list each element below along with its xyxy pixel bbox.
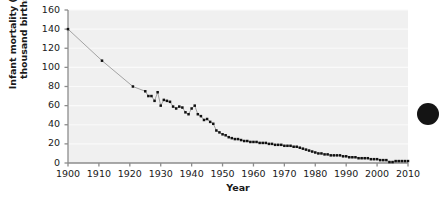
data-point: [243, 140, 246, 143]
data-point: [376, 158, 379, 161]
data-point: [320, 152, 323, 155]
data-point: [326, 153, 329, 156]
data-point: [271, 143, 274, 146]
data-point: [67, 28, 70, 31]
data-point: [370, 158, 373, 161]
data-point: [404, 160, 407, 163]
page-edge-dot-icon: [417, 103, 439, 125]
data-point: [187, 113, 190, 116]
data-point: [144, 90, 147, 93]
data-point: [212, 123, 215, 126]
data-point: [289, 145, 292, 148]
data-point: [351, 156, 354, 159]
data-point: [333, 154, 336, 157]
data-point: [274, 144, 277, 147]
data-point: [184, 111, 187, 114]
data-point: [277, 144, 280, 147]
data-point: [382, 159, 385, 162]
data-point: [159, 104, 162, 107]
data-point: [237, 138, 240, 141]
data-point: [209, 121, 212, 124]
data-point: [240, 139, 243, 142]
data-point: [252, 141, 255, 144]
data-point: [397, 160, 400, 163]
data-point: [363, 157, 366, 160]
data-point: [249, 141, 252, 144]
data-point: [286, 145, 289, 148]
data-point: [265, 142, 268, 145]
data-point: [394, 160, 397, 163]
data-point: [280, 144, 283, 147]
data-point: [308, 149, 311, 152]
data-point: [175, 107, 178, 110]
data-point: [147, 95, 150, 98]
data-point: [190, 107, 193, 110]
data-point: [357, 157, 360, 160]
data-point: [268, 143, 271, 146]
data-point: [231, 137, 234, 140]
data-point: [132, 85, 135, 88]
data-point: [385, 159, 388, 162]
data-point: [166, 100, 169, 103]
data-point: [329, 154, 332, 157]
data-point: [218, 131, 221, 134]
data-point: [367, 157, 370, 160]
data-point: [407, 160, 410, 163]
data-point: [345, 155, 348, 158]
data-point: [153, 100, 156, 103]
data-point: [246, 140, 249, 143]
data-point: [206, 118, 209, 121]
data-point: [197, 113, 200, 116]
data-point: [172, 105, 175, 108]
data-point: [169, 101, 172, 104]
data-point: [224, 134, 227, 137]
data-point: [150, 95, 153, 98]
data-point: [292, 145, 295, 148]
data-point: [295, 145, 298, 148]
data-point: [342, 155, 345, 158]
data-point: [302, 147, 305, 150]
data-point: [258, 142, 261, 145]
data-point: [339, 154, 342, 157]
data-point: [336, 154, 339, 157]
data-point: [163, 99, 166, 102]
data-point: [227, 136, 230, 139]
data-point: [391, 161, 394, 164]
data-point: [314, 151, 317, 154]
data-point: [193, 104, 196, 107]
data-point: [401, 160, 404, 163]
data-point: [181, 106, 184, 109]
data-point: [323, 153, 326, 156]
data-point: [203, 119, 206, 122]
data-point: [305, 148, 308, 151]
data-point: [373, 158, 376, 161]
data-point: [348, 156, 351, 159]
data-point: [261, 142, 264, 145]
data-point: [388, 161, 391, 164]
data-point: [221, 133, 224, 136]
data-point: [156, 91, 159, 94]
data-point: [215, 129, 218, 132]
data-point: [283, 145, 286, 148]
data-point: [200, 115, 203, 118]
data-point: [311, 150, 314, 153]
data-point: [101, 59, 104, 62]
data-point: [354, 156, 357, 159]
data-point: [178, 105, 181, 108]
data-point: [317, 152, 320, 155]
data-point: [360, 157, 363, 160]
data-point: [255, 141, 257, 144]
data-point: [379, 159, 382, 162]
data-point: [234, 138, 237, 141]
data-point: [299, 146, 302, 149]
